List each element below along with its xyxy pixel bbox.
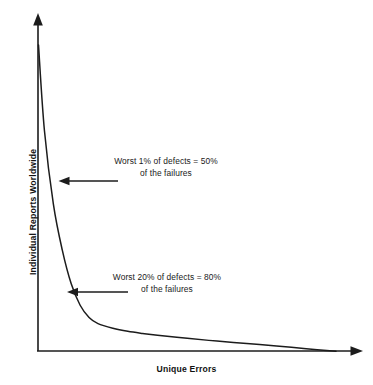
- x-axis-arrowhead-icon: [351, 346, 364, 356]
- y-axis-label: Individual Reports Worldwide: [28, 149, 38, 275]
- annotation-1-line-1: Worst 1% of defects = 50%: [114, 156, 218, 166]
- pareto-curve: [39, 45, 337, 351]
- annotation-1-arrowhead-icon: [59, 177, 70, 185]
- pareto-chart: Worst 1% of defects = 50% of the failure…: [0, 0, 373, 385]
- annotation-1-line-2: of the failures: [106, 168, 226, 180]
- x-axis-label: Unique Errors: [0, 364, 373, 374]
- y-axis-label-container: Individual Reports Worldwide: [12, 95, 30, 275]
- annotation-2-line-1: Worst 20% of defects = 80%: [113, 272, 221, 282]
- chart-canvas: [0, 0, 373, 385]
- annotation-1-text: Worst 1% of defects = 50% of the failure…: [106, 156, 226, 179]
- annotation-2-text: Worst 20% of defects = 80% of the failur…: [103, 272, 231, 295]
- annotation-2-line-2: of the failures: [103, 284, 231, 296]
- y-axis-arrowhead-icon: [33, 13, 43, 26]
